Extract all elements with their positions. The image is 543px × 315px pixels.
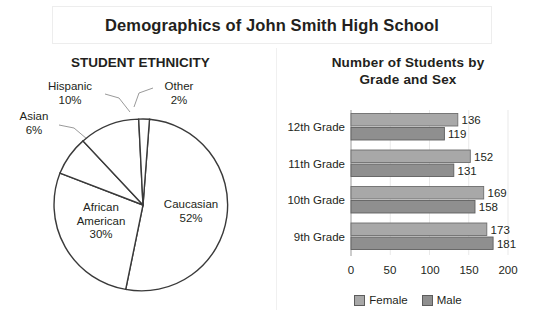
bar-10th-female bbox=[351, 187, 484, 200]
legend-swatch-female bbox=[354, 295, 365, 306]
pie-label-caucasian: Caucasian 52% bbox=[148, 198, 234, 225]
value-10th-female: 169 bbox=[488, 187, 507, 199]
page-title: Demographics of John Smith High School bbox=[105, 16, 439, 35]
bar-12th-male bbox=[351, 128, 444, 141]
bar-category-9th: 9th Grade bbox=[294, 231, 345, 243]
asian-leader-line bbox=[59, 125, 87, 139]
value-9th-male: 181 bbox=[497, 238, 516, 250]
value-10th-male: 158 bbox=[479, 201, 498, 213]
pie-chart-panel: STUDENT ETHNICITY Ca bbox=[8, 48, 273, 310]
value-9th-female: 173 bbox=[491, 224, 510, 236]
bar-9th-female bbox=[351, 223, 487, 236]
legend-label-female: Female bbox=[369, 294, 407, 306]
legend-swatch-male bbox=[422, 295, 433, 306]
bar-11th-male bbox=[351, 164, 454, 177]
value-11th-male: 131 bbox=[458, 165, 477, 177]
title-band: Demographics of John Smith High School bbox=[52, 6, 492, 44]
bar-chart-legend: Female Male bbox=[277, 294, 539, 306]
xtick-50: 50 bbox=[384, 264, 397, 276]
xtick-0: 0 bbox=[348, 264, 354, 276]
xtick-150: 150 bbox=[459, 264, 478, 276]
value-11th-female: 152 bbox=[474, 151, 493, 163]
pie-label-african-american: African American 30% bbox=[60, 201, 142, 242]
pie-label-other-name: Other bbox=[165, 80, 194, 92]
other-leader-line bbox=[134, 88, 153, 107]
bar-10th-male bbox=[351, 201, 475, 214]
legend-label-male: Male bbox=[437, 294, 462, 306]
value-12th-female: 136 bbox=[462, 114, 481, 126]
pie-label-hispanic-pct: 10% bbox=[37, 94, 103, 108]
pie-label-asian-pct: 6% bbox=[10, 124, 58, 138]
value-12th-male: 119 bbox=[448, 128, 466, 140]
pie-label-hispanic: Hispanic 10% bbox=[37, 80, 103, 107]
pie-label-hispanic-name: Hispanic bbox=[48, 80, 92, 92]
pie-label-other-pct: 2% bbox=[154, 94, 204, 108]
chart-page: Demographics of John Smith High School S… bbox=[0, 0, 543, 315]
pie-label-other: Other 2% bbox=[154, 80, 204, 107]
bar-12th-female bbox=[351, 114, 458, 127]
pie-label-african-american-pct: 30% bbox=[60, 228, 142, 242]
legend-item-female: Female bbox=[354, 294, 407, 306]
bar-chart-panel: Number of Students by Grade and Sex bbox=[276, 48, 539, 310]
xtick-200: 200 bbox=[498, 264, 517, 276]
pie-label-asian-name: Asian bbox=[20, 110, 49, 122]
pie-label-asian: Asian 6% bbox=[10, 110, 58, 137]
bar-9th-male bbox=[351, 237, 493, 250]
pie-label-african-american-name-line1: African bbox=[83, 201, 119, 213]
bar-chart-svg: 0 50 100 150 200 12th Grade 11th Grade 1… bbox=[277, 48, 539, 310]
pie-chart: Caucasian 52% African American 30% Asian… bbox=[8, 48, 273, 310]
pie-label-caucasian-pct: 52% bbox=[148, 212, 234, 226]
bar-category-12th: 12th Grade bbox=[287, 121, 345, 133]
bar-category-11th: 11th Grade bbox=[288, 158, 345, 170]
legend-item-male: Male bbox=[422, 294, 462, 306]
pie-label-african-american-name-line2: American bbox=[60, 215, 142, 229]
bar-11th-female bbox=[351, 150, 470, 163]
xtick-100: 100 bbox=[420, 264, 439, 276]
hispanic-leader-line bbox=[105, 94, 130, 112]
bar-category-10th: 10th Grade bbox=[287, 194, 345, 206]
pie-label-caucasian-name: Caucasian bbox=[164, 198, 218, 210]
